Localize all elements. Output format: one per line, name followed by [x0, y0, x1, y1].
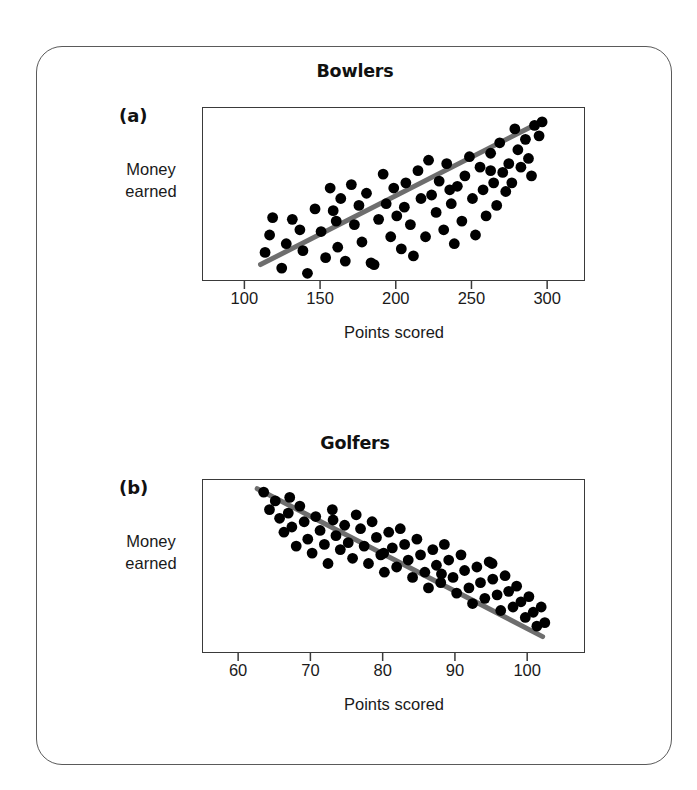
data-point	[456, 549, 467, 560]
x-tick-label: 90	[446, 661, 464, 680]
data-point	[439, 539, 450, 550]
x-tick-label: 100	[513, 661, 541, 680]
data-point	[467, 193, 478, 204]
data-point	[441, 158, 452, 169]
data-point	[491, 200, 502, 211]
x-tick-label: 80	[373, 661, 391, 680]
data-point	[512, 144, 523, 155]
data-point	[367, 516, 378, 527]
data-point	[448, 572, 459, 583]
data-point	[413, 165, 424, 176]
data-point	[354, 200, 365, 211]
data-point	[412, 534, 423, 545]
data-point	[534, 130, 545, 141]
data-point	[299, 516, 310, 527]
data-point	[320, 252, 331, 263]
data-point	[431, 207, 442, 218]
data-point	[405, 219, 416, 230]
x-tick-label: 250	[458, 289, 486, 308]
y-axis-label-line2: earned	[125, 182, 176, 200]
data-point	[383, 527, 394, 538]
panel-tag-b: (b)	[119, 477, 148, 498]
data-point	[436, 569, 447, 580]
data-point	[416, 193, 427, 204]
data-point	[524, 591, 535, 602]
data-point	[526, 170, 537, 181]
data-point	[420, 231, 431, 242]
data-point	[395, 523, 406, 534]
x-tick-label: 70	[301, 661, 319, 680]
scatter-plot-golfers	[203, 480, 586, 654]
data-point	[351, 509, 362, 520]
data-point	[536, 602, 547, 613]
data-point	[357, 237, 368, 248]
data-point	[276, 263, 287, 274]
data-point	[302, 534, 313, 545]
data-point	[331, 530, 342, 541]
data-point	[537, 117, 548, 128]
data-point	[503, 158, 514, 169]
data-point	[328, 515, 339, 526]
data-point	[371, 532, 382, 543]
panel-tag-a: (a)	[119, 105, 148, 126]
data-point	[492, 589, 503, 600]
data-point	[388, 183, 399, 194]
plot-area-golfers	[202, 479, 585, 653]
data-point	[310, 511, 321, 522]
data-point	[467, 598, 478, 609]
data-point	[264, 230, 275, 241]
data-point	[323, 558, 334, 569]
data-point	[400, 177, 411, 188]
data-point	[443, 555, 454, 566]
data-point	[423, 155, 434, 166]
data-point	[391, 210, 402, 221]
data-point	[335, 193, 346, 204]
data-point	[328, 205, 339, 216]
y-axis-label-line1: Money	[126, 160, 176, 178]
data-point	[451, 588, 462, 599]
data-point	[340, 256, 351, 267]
data-point	[339, 520, 350, 531]
y-axis-label-bowlers: Money earned	[95, 159, 207, 203]
data-point	[319, 539, 330, 550]
data-point	[495, 605, 506, 616]
data-point	[267, 212, 278, 223]
data-point	[287, 214, 298, 225]
figure-card: Bowlers (a) Money earned 100150200250300…	[36, 46, 672, 765]
card-shadow	[56, 762, 676, 784]
data-point	[403, 555, 414, 566]
chart-title-bowlers: Bowlers	[37, 61, 673, 81]
data-point	[298, 245, 309, 256]
data-point	[373, 214, 384, 225]
data-point	[539, 617, 550, 628]
data-point	[281, 238, 292, 249]
data-point	[310, 204, 321, 215]
data-point	[355, 523, 366, 534]
data-point	[316, 226, 327, 237]
data-point	[446, 198, 457, 209]
x-tick-label: 100	[231, 289, 259, 308]
data-point	[427, 544, 438, 555]
data-point	[391, 562, 402, 573]
data-point	[307, 548, 318, 559]
y-axis-label-golfers: Money earned	[95, 531, 207, 575]
data-point	[485, 148, 496, 159]
data-point	[291, 541, 302, 552]
data-point	[475, 162, 486, 173]
data-point	[423, 582, 434, 593]
data-point	[408, 251, 419, 262]
data-point	[302, 268, 313, 279]
data-point	[378, 548, 389, 559]
data-point	[369, 259, 380, 270]
chart-panel-bowlers: Bowlers (a) Money earned 100150200250300…	[37, 61, 673, 391]
data-point	[363, 558, 374, 569]
data-point	[506, 177, 517, 188]
data-point	[494, 137, 505, 148]
data-point	[523, 153, 534, 164]
data-point	[459, 170, 470, 181]
data-point	[497, 167, 508, 178]
data-point	[464, 582, 475, 593]
data-point	[286, 522, 297, 533]
y-axis-label-line1: Money	[126, 532, 176, 550]
data-point	[327, 504, 338, 515]
